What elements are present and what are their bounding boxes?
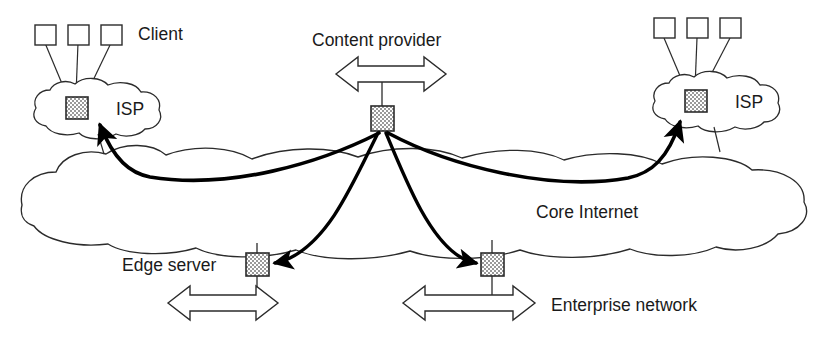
- enterprise-network-node[interactable]: [481, 253, 504, 276]
- content-provider-node[interactable]: [371, 106, 394, 131]
- client-box-left-1[interactable]: [35, 25, 56, 45]
- network-diagram: Core Internet Client ISP ISP Content pro…: [0, 0, 823, 341]
- core-internet-cloud: [21, 145, 806, 258]
- isp-right-server-node[interactable]: [685, 90, 707, 112]
- client-label: Client: [138, 24, 183, 44]
- client-box-right-1[interactable]: [654, 18, 675, 38]
- client-box-left-3[interactable]: [101, 25, 122, 45]
- edge-server-node[interactable]: [246, 253, 269, 276]
- isp-right-label: ISP: [735, 92, 763, 112]
- isp-left-label: ISP: [116, 99, 144, 119]
- content-provider-label: Content provider: [312, 30, 442, 50]
- core-internet-label: Core Internet: [536, 202, 638, 222]
- client-box-left-2[interactable]: [68, 25, 89, 45]
- edge-server-label: Edge server: [122, 255, 217, 275]
- enterprise-network-label: Enterprise network: [551, 295, 697, 315]
- client-box-right-3[interactable]: [720, 18, 741, 38]
- isp-left-server-node[interactable]: [66, 97, 88, 119]
- client-box-right-2[interactable]: [687, 18, 708, 38]
